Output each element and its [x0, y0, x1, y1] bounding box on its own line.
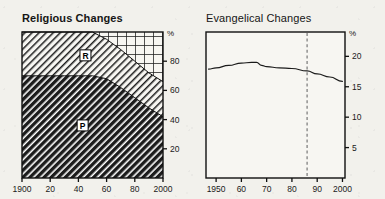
y-tick-label-right: 5 [352, 143, 357, 153]
y-axis-unit-label-right: % [349, 29, 356, 38]
x-tick-label-right: 60 [237, 184, 247, 194]
x-tick-label-right: 70 [262, 184, 272, 194]
y-axis-evangelical: 5101520 [345, 51, 362, 152]
x-tick-label-right: 1950 [207, 184, 226, 194]
x-tick-label-right: 80 [287, 184, 297, 194]
plot-background-right [206, 32, 345, 178]
evangelical-changes-plot: 5101520 1950607080902000 % [0, 0, 385, 199]
x-tick-label-right: 2000 [333, 184, 352, 194]
x-tick-label-right: 90 [312, 184, 322, 194]
y-tick-label-right: 20 [352, 51, 362, 61]
x-axis-evangelical: 1950607080902000 [207, 178, 353, 194]
y-tick-label-right: 10 [352, 112, 362, 122]
y-tick-label-right: 15 [352, 82, 362, 92]
